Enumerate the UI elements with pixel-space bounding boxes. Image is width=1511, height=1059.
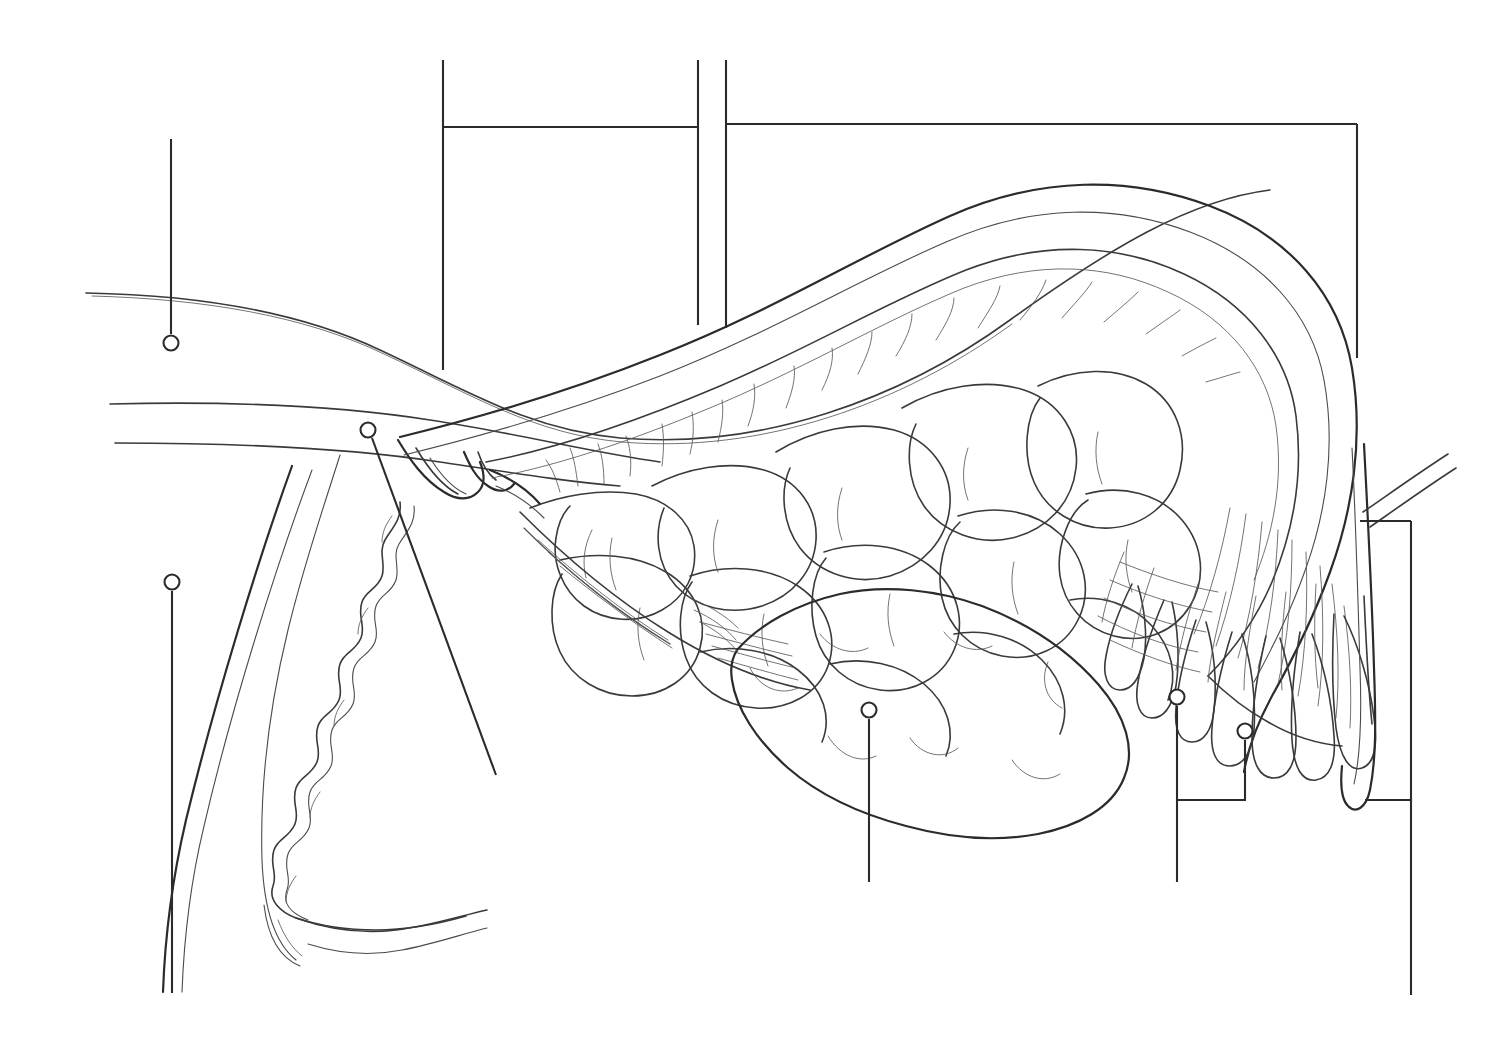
leader-fimbria-inner-dot: [1170, 690, 1185, 705]
leader-fimbria-outer-dot: [1238, 724, 1253, 739]
leader-diagonal-isthmus-dot: [361, 423, 376, 438]
leader-upper-left-dot: [164, 336, 179, 351]
figure-background: [0, 0, 1511, 1059]
anatomy-line-drawing: [0, 0, 1511, 1059]
leader-lower-left-dot: [165, 575, 180, 590]
anatomy-figure: Uterine tube and ovary — unlabeled anato…: [0, 0, 1511, 1059]
leader-ovary-dot: [862, 703, 877, 718]
